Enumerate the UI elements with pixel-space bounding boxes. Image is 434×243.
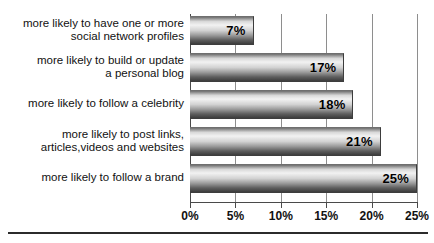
chart-rows: more likely to have one or more social n… <box>0 14 434 199</box>
x-tick-label: 0% <box>168 209 212 223</box>
chart-row: more likely to follow a celebrity18% <box>0 88 434 125</box>
horizontal-bar-chart: more likely to have one or more social n… <box>0 0 434 243</box>
bar[interactable]: 21% <box>190 127 381 156</box>
x-tick-label: 5% <box>213 209 257 223</box>
chart-row: more likely to build or update a persona… <box>0 51 434 88</box>
bar[interactable]: 18% <box>190 90 353 119</box>
bar-value-label: 21% <box>346 134 380 149</box>
category-label: more likely to follow a brand <box>4 162 184 194</box>
bar-track: 18% <box>190 90 417 119</box>
x-tick-mark <box>372 203 373 208</box>
chart-row: more likely to have one or more social n… <box>0 14 434 51</box>
x-tick-mark <box>326 203 327 208</box>
x-tick-label: 10% <box>259 209 303 223</box>
chart-row: more likely to post links, articles,vide… <box>0 125 434 162</box>
bar-value-label: 17% <box>310 60 344 75</box>
x-axis: 0%5%10%15%20%25% <box>0 203 434 223</box>
x-tick-label: 15% <box>304 209 348 223</box>
bar-track: 21% <box>190 127 417 156</box>
bar-track: 17% <box>190 53 417 82</box>
category-label: more likely to post links, articles,vide… <box>4 125 184 157</box>
bar-track: 7% <box>190 16 417 45</box>
bar-value-label: 25% <box>382 171 416 186</box>
bar[interactable]: 17% <box>190 53 344 82</box>
bar-value-label: 18% <box>319 97 353 112</box>
footer-divider <box>8 232 428 234</box>
bar[interactable]: 7% <box>190 16 254 45</box>
x-tick-mark <box>235 203 236 208</box>
bar-value-label: 7% <box>226 23 252 38</box>
x-tick-mark <box>281 203 282 208</box>
x-tick-mark <box>417 203 418 208</box>
category-label: more likely to follow a celebrity <box>4 88 184 120</box>
chart-row: more likely to follow a brand25% <box>0 162 434 199</box>
bar[interactable]: 25% <box>190 164 417 193</box>
x-tick-label: 20% <box>350 209 394 223</box>
x-tick-mark <box>190 203 191 208</box>
bar-track: 25% <box>190 164 417 193</box>
x-tick-label: 25% <box>395 209 434 223</box>
category-label: more likely to build or update a persona… <box>4 51 184 83</box>
category-label: more likely to have one or more social n… <box>4 14 184 46</box>
